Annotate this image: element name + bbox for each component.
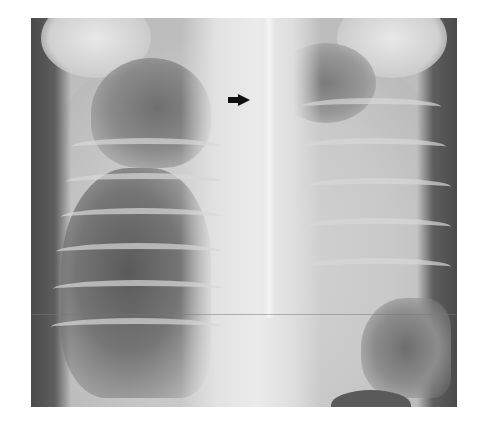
rib	[301, 138, 446, 156]
rib	[56, 243, 221, 261]
left-lung-lower-field	[361, 298, 451, 398]
scan-artifact-line	[31, 314, 457, 315]
rib	[61, 208, 221, 226]
rib	[71, 138, 221, 156]
rib	[301, 98, 441, 116]
rib	[66, 173, 221, 191]
rib	[301, 258, 451, 276]
arrow-right-icon	[228, 94, 250, 106]
trachea	[263, 18, 275, 318]
rib	[301, 218, 451, 236]
chest-xray-image	[31, 18, 457, 407]
rib	[53, 280, 223, 298]
rib	[301, 178, 451, 196]
rib	[51, 318, 221, 336]
